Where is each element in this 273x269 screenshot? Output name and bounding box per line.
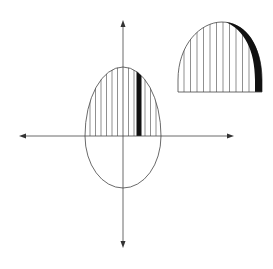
x-axis-left-arrow-icon xyxy=(19,134,26,139)
diagram-canvas xyxy=(0,0,273,269)
x-axis-right-arrow-icon xyxy=(227,134,234,139)
inset-highlighted-shell xyxy=(226,22,262,92)
y-axis-down-arrow-icon xyxy=(121,241,126,248)
coordinate-axes xyxy=(19,20,234,248)
inset-solid xyxy=(178,15,262,92)
y-axis-up-arrow-icon xyxy=(121,20,126,27)
